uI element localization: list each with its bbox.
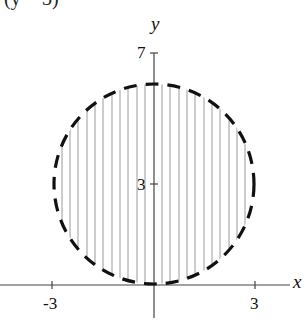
graph: [0, 0, 306, 324]
y-axis-label: y: [151, 14, 159, 33]
y-tick-label-7: 7: [137, 44, 146, 61]
x-axis-label: x: [293, 272, 301, 291]
x-tick-label-3: 3: [250, 295, 259, 312]
x-tick-label-neg3: -3: [43, 295, 57, 312]
y-tick-label-3: 3: [137, 176, 146, 193]
